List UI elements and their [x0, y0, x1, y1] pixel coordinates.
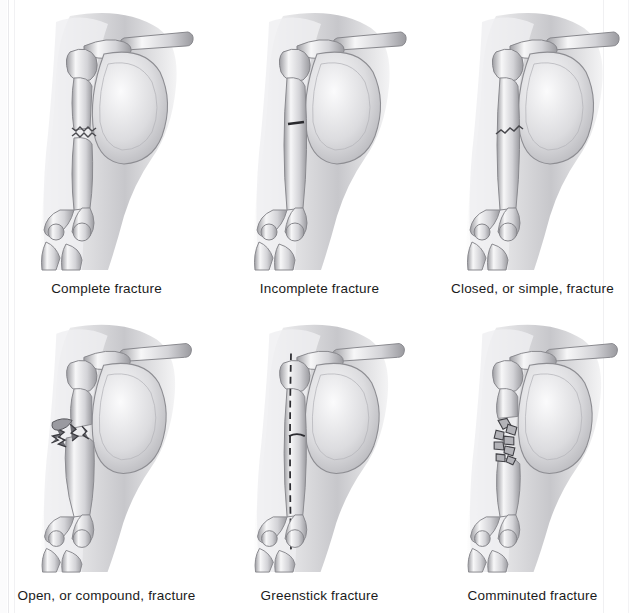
caption-complete-fracture: Complete fracture [0, 281, 213, 296]
panel-greenstick-fracture: Greenstick fracture [213, 310, 426, 613]
illustration-comminuted-fracture [426, 314, 639, 576]
illustration-open-compound-fracture [0, 314, 213, 576]
caption-closed-simple-fracture: Closed, or simple, fracture [426, 281, 639, 296]
caption-incomplete-fracture: Incomplete fracture [213, 281, 426, 296]
illustration-closed-simple-fracture [426, 2, 639, 274]
illustration-incomplete-fracture [213, 2, 426, 274]
panel-comminuted-fracture: Comminuted fracture [426, 310, 639, 613]
panel-closed-simple-fracture: Closed, or simple, fracture [426, 0, 639, 310]
caption-greenstick-fracture: Greenstick fracture [213, 588, 426, 603]
caption-open-compound-fracture: Open, or compound, fracture [0, 588, 213, 603]
illustration-greenstick-fracture [213, 314, 426, 576]
panel-complete-fracture: Complete fracture [0, 0, 213, 310]
panel-incomplete-fracture: Incomplete fracture [213, 0, 426, 310]
fracture-panel-grid: Complete fracture [0, 0, 639, 613]
caption-comminuted-fracture: Comminuted fracture [426, 588, 639, 603]
panel-open-compound-fracture: Open, or compound, fracture [0, 310, 213, 613]
illustration-complete-fracture [0, 2, 213, 274]
